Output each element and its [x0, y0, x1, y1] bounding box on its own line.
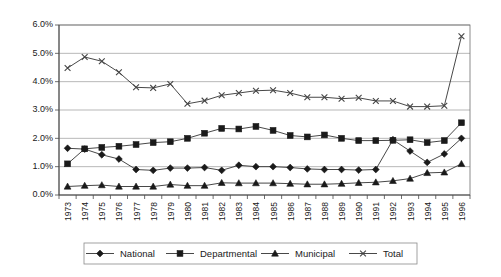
x-axis-tick-label: 1985: [269, 202, 279, 221]
x-axis-tick-label: 1976: [114, 202, 124, 221]
y-axis-tick-label: 1.0%: [32, 161, 53, 171]
x-axis-tick-label: 1990: [354, 202, 364, 221]
data-point-square: [202, 130, 208, 136]
x-axis-tick-label: 1991: [371, 202, 381, 221]
data-point-square: [236, 126, 242, 132]
y-axis-tick-label: 5.0%: [32, 48, 53, 58]
data-point-square: [373, 138, 379, 144]
data-point-square: [407, 137, 413, 143]
data-point-square: [219, 126, 225, 132]
x-axis-tick-label: 1983: [234, 202, 244, 221]
data-point-square: [390, 137, 396, 143]
legend-item-label: Departmental: [200, 248, 257, 259]
x-axis-tick-label: 1978: [149, 202, 159, 221]
data-point-square: [441, 138, 447, 144]
y-axis-tick-label: 6.0%: [32, 19, 53, 29]
x-axis-tick-label: 1974: [80, 202, 90, 221]
data-point-square: [150, 140, 156, 146]
data-point-square: [322, 132, 328, 138]
data-point-square: [424, 140, 430, 146]
y-axis-tick-label: 3.0%: [32, 104, 53, 114]
data-point-square: [270, 128, 276, 134]
data-point-square: [99, 145, 105, 151]
x-axis-tick-label: 1987: [303, 202, 313, 221]
data-point-square: [177, 251, 183, 257]
y-axis-tick-label: 2.0%: [32, 133, 53, 143]
data-point-square: [356, 138, 362, 144]
x-axis-tick-label: 1986: [286, 202, 296, 221]
line-chart: 0.0%1.0%2.0%3.0%4.0%5.0%6.0% 19731974197…: [0, 0, 501, 277]
chart-canvas: 0.0%1.0%2.0%3.0%4.0%5.0%6.0% 19731974197…: [0, 0, 501, 277]
x-axis-tick-label: 1973: [63, 202, 73, 221]
legend-item-label: National: [120, 248, 155, 259]
x-axis-tick-label: 1994: [423, 202, 433, 221]
data-point-square: [82, 146, 88, 152]
x-axis-tick-label: 1975: [97, 202, 107, 221]
x-axis-tick-label: 1996: [457, 202, 467, 221]
x-axis-tick-label: 1995: [440, 202, 450, 221]
x-axis-tick-label: 1988: [320, 202, 330, 221]
data-point-square: [253, 124, 259, 130]
x-axis-tick-label: 1981: [200, 202, 210, 221]
data-point-square: [116, 143, 122, 149]
data-point-square: [304, 134, 310, 140]
x-axis-tick-label: 1992: [388, 202, 398, 221]
x-axis-tick-label: 1993: [406, 202, 416, 221]
data-point-square: [287, 133, 293, 139]
data-point-square: [185, 135, 191, 141]
x-axis-tick-label: 1984: [251, 202, 261, 221]
data-point-square: [133, 142, 139, 148]
y-axis-tick-label: 0.0%: [32, 189, 53, 199]
data-point-square: [65, 161, 71, 167]
legend-item-label: Municipal: [295, 248, 335, 259]
x-axis-tick-label: 1982: [217, 202, 227, 221]
y-axis-tick-label: 4.0%: [32, 76, 53, 86]
x-axis-tick-label: 1979: [166, 202, 176, 221]
data-point-square: [167, 139, 173, 145]
x-axis-tick-label: 1977: [132, 202, 142, 221]
x-axis-tick-label: 1989: [337, 202, 347, 221]
x-axis-tick-label: 1980: [183, 202, 193, 221]
data-point-square: [339, 135, 345, 141]
legend-item-label: Total: [383, 248, 403, 259]
data-point-square: [459, 120, 465, 126]
